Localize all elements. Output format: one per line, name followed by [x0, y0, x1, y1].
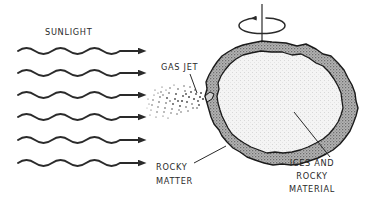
- sunlight-label: SUNLIGHT: [45, 27, 93, 37]
- diagram-canvas: SUNLIGHT: [0, 0, 377, 203]
- sunlight-ray: [18, 137, 138, 143]
- sunlight-ray: [18, 92, 138, 98]
- comet-nucleus: [205, 41, 358, 165]
- rotation-group: [239, 4, 285, 44]
- sunlight-ray: [18, 114, 138, 120]
- nucleus-core: [217, 51, 343, 153]
- rocky-matter-label-line2: MATTER: [156, 176, 193, 186]
- ices-label-line1: ICES AND: [290, 158, 335, 168]
- sunlight-ray: [18, 70, 138, 76]
- sunlight-ray: [18, 48, 138, 54]
- comet-diagram: SUNLIGHT: [0, 0, 377, 203]
- ices-label-line3: MATERIAL: [289, 184, 335, 194]
- sunlight-ray: [18, 160, 138, 166]
- ices-label-line2: ROCKY: [296, 171, 328, 181]
- rocky-matter-leader-line: [194, 146, 226, 163]
- gas-jet-leader-line: [190, 74, 197, 93]
- sunlight-rays-group: [18, 48, 138, 166]
- rocky-matter-label-line1: ROCKY: [156, 162, 188, 172]
- gas-jet-label: GAS JET: [161, 62, 199, 72]
